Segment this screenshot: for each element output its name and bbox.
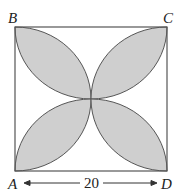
label-D: D	[160, 176, 172, 192]
side-length-label: 20	[84, 175, 99, 191]
label-C: C	[163, 10, 174, 26]
geometry-diagram: B C A D 20	[0, 0, 180, 196]
label-A: A	[7, 176, 18, 192]
shaded-petals	[15, 27, 167, 171]
arrowhead-right-icon	[151, 181, 157, 186]
petal-bottom-left	[15, 99, 91, 171]
arrowhead-left-icon	[24, 181, 30, 186]
label-B: B	[8, 10, 17, 26]
petal-top-right	[91, 27, 167, 99]
petal-top-left	[15, 27, 91, 99]
petal-bottom-right	[91, 99, 167, 171]
